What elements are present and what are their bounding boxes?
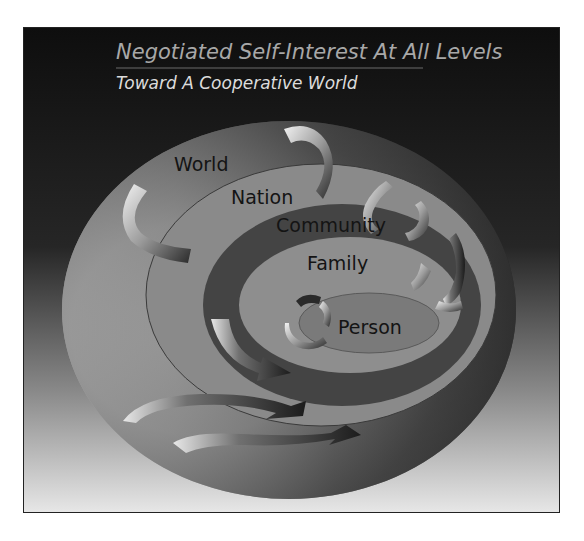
diagram-title: Negotiated Self-Interest At All Levels: [116, 40, 502, 64]
label-family: Family: [307, 252, 368, 274]
label-world: World: [174, 153, 228, 175]
label-nation: Nation: [231, 186, 293, 208]
nested-levels-diagram: Negotiated Self-Interest At All Levels T…: [24, 28, 560, 513]
diagram-subtitle: Toward A Cooperative World: [116, 73, 358, 93]
diagram-panel: Negotiated Self-Interest At All Levels T…: [23, 27, 560, 513]
label-community: Community: [276, 214, 386, 236]
label-person: Person: [338, 316, 402, 338]
figure: Negotiated Self-Interest At All Levels T…: [0, 0, 584, 541]
